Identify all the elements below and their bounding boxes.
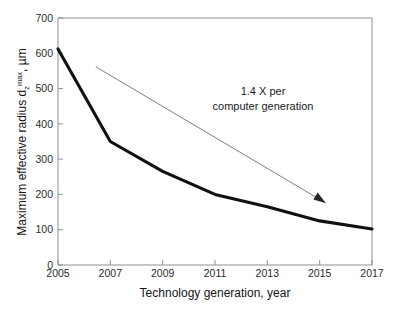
y-tick-label-700: 700 — [35, 12, 53, 24]
y-tick-label-600: 600 — [35, 47, 53, 59]
y-axis-title: Maximum effective radius dzmax, µm — [15, 48, 31, 235]
annotation-arrow-head — [313, 193, 326, 204]
y-tick-label-100: 100 — [35, 223, 53, 235]
x-tick-label-2009: 2009 — [151, 267, 175, 279]
y-tick-label-500: 500 — [35, 82, 53, 94]
x-tick-label-2013: 2013 — [256, 267, 280, 279]
x-tick-label-2007: 2007 — [99, 267, 123, 279]
x-tick-label-2017: 2017 — [360, 267, 384, 279]
x-tick-label-2015: 2015 — [308, 267, 332, 279]
y-axis-title-tail: , µm — [15, 48, 29, 72]
annotation-arrow-shaft — [96, 67, 319, 199]
y-tick-label-300: 300 — [35, 153, 53, 165]
x-axis-tick-labels: 2005 2007 2009 2011 2013 2015 2017 — [46, 267, 384, 279]
rate-annotation-text: 1.4 X per computer generation — [213, 85, 314, 112]
chart-figure: 0 100 200 300 400 500 600 700 2005 2007 … — [0, 0, 395, 310]
x-axis-title: Technology generation, year — [140, 286, 291, 300]
chart-canvas: 0 100 200 300 400 500 600 700 2005 2007 … — [0, 0, 395, 310]
y-tick-label-200: 200 — [35, 188, 53, 200]
y-tick-label-400: 400 — [35, 118, 53, 130]
annotation-line-2: computer generation — [213, 100, 314, 112]
svg-text:Maximum effective radius dzmax: Maximum effective radius dzmax, µm — [15, 48, 31, 235]
axis-frame — [58, 18, 372, 265]
x-tick-label-2005: 2005 — [46, 267, 70, 279]
annotation-line-1: 1.4 X per — [241, 85, 286, 97]
y-axis-title-main: Maximum effective radius d — [15, 90, 29, 236]
y-axis-tick-labels: 0 100 200 300 400 500 600 700 — [35, 12, 53, 271]
rate-annotation-arrow — [96, 67, 326, 203]
x-tick-label-2011: 2011 — [204, 267, 227, 279]
y-axis-title-sup: max — [15, 72, 24, 86]
x-axis-ticks — [58, 260, 372, 265]
plot-axes — [58, 18, 372, 265]
